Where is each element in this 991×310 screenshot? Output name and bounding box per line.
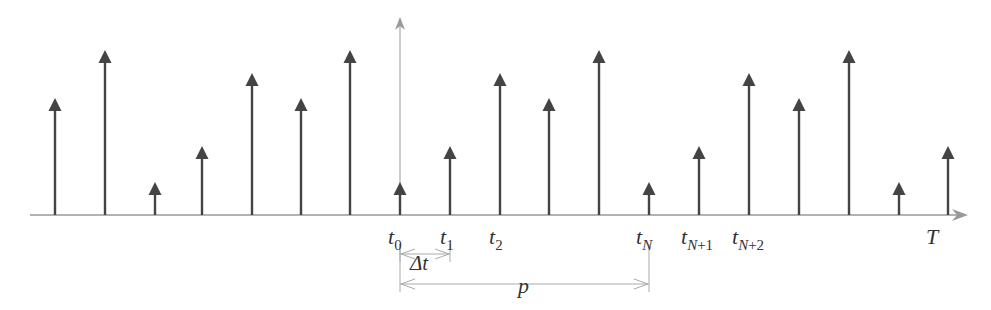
label-p: p [518,275,529,297]
label-t0: t0 [388,226,402,253]
impulse-stem [394,182,407,215]
impulse-stem [494,73,507,215]
impulse-arrowhead-icon [246,73,259,86]
impulse-stem [843,50,856,215]
impulse-arrowhead-icon [394,182,407,195]
impulse-arrowhead-icon [49,98,62,111]
label-t2: t2 [489,226,503,253]
impulse-arrowhead-icon [793,98,806,111]
impulse-stem [793,98,806,215]
impulse-arrowhead-icon [593,50,606,63]
impulse-stem [246,73,259,215]
impulse-stem [743,73,756,215]
impulse-arrowhead-icon [743,73,756,86]
impulse-arrowhead-icon [843,50,856,63]
impulse-arrowhead-icon [494,73,507,86]
impulse-stem [295,98,308,215]
label-T: T [926,226,938,248]
impulse-arrowhead-icon [196,146,209,159]
impulse-arrowhead-icon [295,98,308,111]
impulse-stem [149,182,162,215]
impulse-arrowhead-icon [444,146,457,159]
impulse-stem [49,98,62,215]
impulse-stem [543,98,556,215]
label-t1: t1 [440,226,454,253]
label-delta-t: Δt [410,253,428,274]
impulse-stem [643,182,656,215]
impulse-arrowhead-icon [893,182,906,195]
impulse-arrowhead-icon [643,182,656,195]
impulse-stem [893,182,906,215]
label-tN-plus-1: tN+1 [681,226,713,253]
impulse-stem [444,146,457,215]
impulse-stem [693,146,706,215]
impulse-arrowhead-icon [942,146,955,159]
impulse-arrowhead-icon [693,146,706,159]
impulse-stem [196,146,209,215]
label-tN: tN [636,226,652,253]
label-tN-plus-2: tN+2 [732,226,764,253]
impulse-arrowhead-icon [99,50,112,63]
impulse-stem [99,50,112,215]
impulse-arrowhead-icon [344,50,357,63]
impulse-arrowhead-icon [543,98,556,111]
impulse-stems [49,50,955,215]
impulse-stem [593,50,606,215]
diagram-graphics [0,0,991,310]
impulse-arrowhead-icon [149,182,162,195]
impulse-stem [344,50,357,215]
impulse-train-diagram: t0 t1 t2 tN tN+1 tN+2 T Δt p [0,0,991,310]
impulse-stem [942,146,955,215]
